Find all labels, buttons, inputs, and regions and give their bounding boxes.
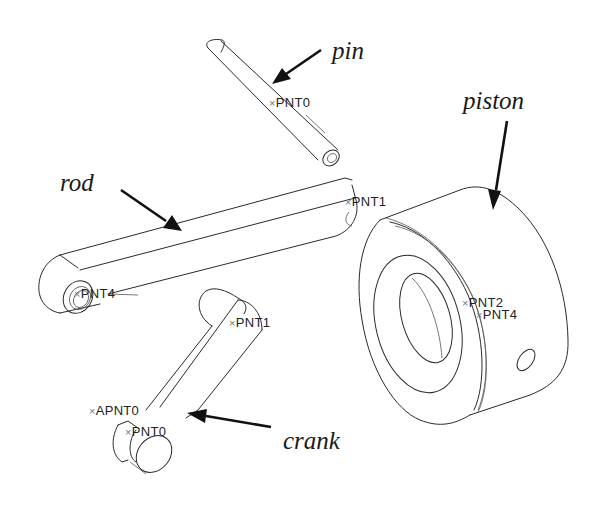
datum-marker-icon: × (89, 405, 96, 417)
datum-marker-icon: × (125, 426, 132, 438)
datum-marker-icon: × (74, 288, 81, 300)
piston-arrow (496, 121, 507, 190)
datum-marker-icon: × (229, 317, 236, 329)
pin-label: pin (332, 38, 364, 63)
crank-arrow (206, 416, 271, 427)
crank-arrowhead-icon (187, 409, 207, 423)
datum-marker-icon: × (345, 196, 352, 208)
pin-datum-point: ×PNT0 (269, 96, 310, 109)
datum-point-label: PNT4 (81, 286, 115, 301)
datum-point-label: PNT0 (276, 95, 310, 110)
crank-label: crank (283, 428, 340, 453)
datum-point-label: PNT0 (132, 424, 166, 439)
crank-datum-point-apnt0: ×APNT0 (89, 404, 139, 417)
rod-datum-point-pnt1: ×PNT1 (345, 195, 386, 208)
rod-label: rod (60, 170, 94, 195)
datum-point-label: PNT4 (483, 307, 517, 322)
piston-label: piston (463, 88, 524, 113)
pin-arrowhead-icon (272, 68, 291, 84)
datum-point-label: PNT1 (236, 315, 270, 330)
rod-datum-point-pnt4: ×PNT4 (74, 287, 115, 300)
datum-marker-icon: × (476, 309, 483, 321)
datum-point-label: PNT1 (352, 194, 386, 209)
piston-datum-point-pnt4: ×PNT4 (476, 308, 517, 321)
piston-arrowhead-icon (488, 189, 501, 210)
pin-arrow (286, 50, 321, 74)
crank-datum-point-pnt0: ×PNT0 (125, 425, 166, 438)
datum-point-label: APNT0 (96, 403, 139, 418)
callout-arrows (121, 50, 507, 427)
datum-marker-icon: × (269, 97, 276, 109)
rod-arrow (121, 190, 166, 221)
datum-marker-icon: × (462, 297, 469, 309)
crank-datum-point-pnt1: ×PNT1 (229, 316, 270, 329)
assembly-diagram: pin rod piston crank ×PNT0 ×PNT1 ×PNT4 ×… (0, 0, 616, 509)
